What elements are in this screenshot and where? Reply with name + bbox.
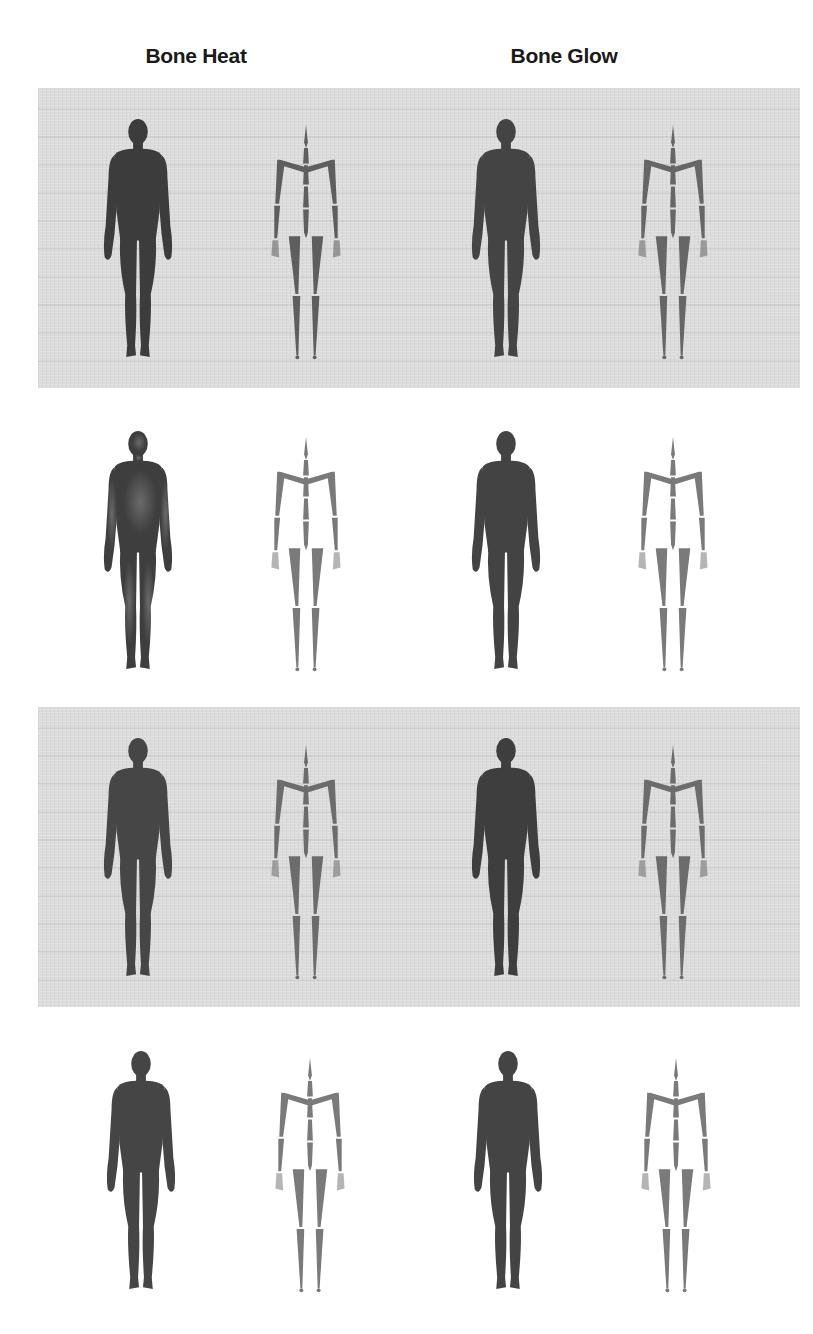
row-2-bone-heat-skeleton (266, 437, 346, 677)
row-2-bone-heat-body (98, 430, 178, 675)
row-1-bone-heat-skeleton (266, 125, 346, 365)
row-1-bone-heat-body (98, 118, 178, 363)
row-4-bone-glow-body (468, 1050, 548, 1295)
row-1-bone-glow-skeleton (633, 125, 713, 365)
row-3-bone-heat-skeleton (266, 745, 346, 985)
row-3-bone-glow-skeleton (633, 745, 713, 985)
column-header-bone-heat: Bone Heat (96, 44, 296, 68)
row-3-bone-glow-body (466, 737, 546, 982)
row-4-bone-heat-body (101, 1050, 181, 1295)
row-4-bone-glow-skeleton (636, 1058, 716, 1298)
column-header-bone-glow: Bone Glow (464, 44, 664, 68)
row-3-bone-heat-body (98, 737, 178, 982)
row-1-bone-glow-body (466, 118, 546, 363)
row-4-bone-heat-skeleton (270, 1058, 350, 1298)
row-2-bone-glow-body (466, 430, 546, 675)
row-2-bone-glow-skeleton (633, 437, 713, 677)
